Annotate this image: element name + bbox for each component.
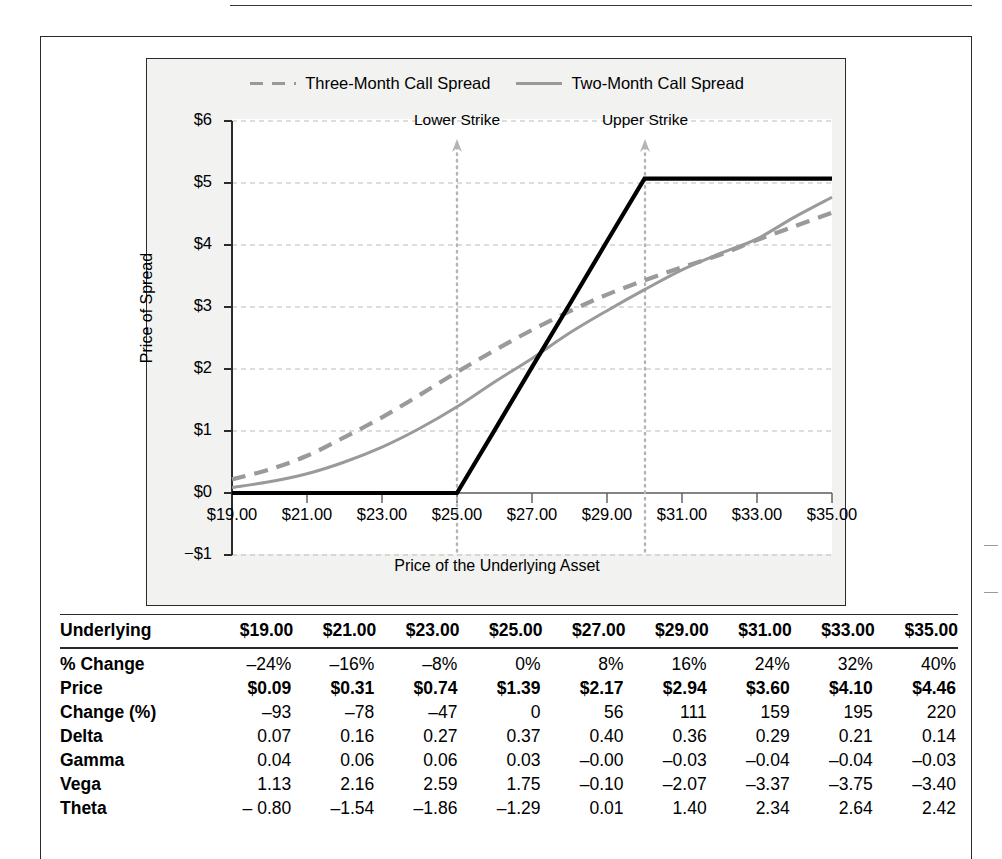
table-cell: – 0.80 (210, 797, 293, 821)
table-cell: –2.07 (626, 773, 709, 797)
table-cell: –78 (293, 701, 376, 725)
table-header-col-8: $35.00 (875, 615, 958, 649)
table-cell: $3.60 (709, 677, 792, 701)
x-tick-label-33: $33.00 (715, 505, 799, 524)
table-cell: 56 (542, 701, 625, 725)
table-cell: $0.09 (210, 677, 293, 701)
table-cell: –93 (210, 701, 293, 725)
table-cell: –16% (293, 648, 376, 677)
table-cell: 2.64 (792, 797, 875, 821)
table-header-col-1: $21.00 (293, 615, 376, 649)
y-tick-label-4: $4 (152, 234, 212, 253)
table-cell: 0.03 (459, 749, 542, 773)
table-cell: 0.37 (459, 725, 542, 749)
y-tick-label-5: $5 (152, 172, 212, 191)
table-cell: –47 (376, 701, 459, 725)
table-cell: 195 (792, 701, 875, 725)
table-row: Delta0.070.160.270.370.400.360.290.210.1… (60, 725, 958, 749)
page-edge-tick-upper (984, 545, 998, 546)
table-cell: $0.74 (376, 677, 459, 701)
x-tick-label-25: $25.00 (415, 505, 499, 524)
table-cell: 220 (875, 701, 958, 725)
table-cell: –3.37 (709, 773, 792, 797)
table-cell: $2.94 (626, 677, 709, 701)
table-cell: 0.29 (709, 725, 792, 749)
table-cell: 0.14 (875, 725, 958, 749)
x-tick-label-19: $19.00 (190, 505, 274, 524)
table-row-label: % Change (60, 648, 210, 677)
y-tick-label-2: $2 (152, 358, 212, 377)
table-row: Price$0.09$0.31$0.74$1.39$2.17$2.94$3.60… (60, 677, 958, 701)
table-row: Vega1.132.162.591.75–0.10–2.07–3.37–3.75… (60, 773, 958, 797)
table-cell: –0.04 (792, 749, 875, 773)
table-header-underlying: Underlying (60, 615, 210, 649)
table-cell: 0% (459, 648, 542, 677)
table-header-col-6: $31.00 (709, 615, 792, 649)
table-row: Change (%)–93–78–47056111159195220 (60, 701, 958, 725)
table-cell: $1.39 (459, 677, 542, 701)
table-cell: 0.27 (376, 725, 459, 749)
upper-strike-label: Upper Strike (575, 111, 715, 129)
table-row-label: Price (60, 677, 210, 701)
table-row-label: Change (%) (60, 701, 210, 725)
table-cell: $0.31 (293, 677, 376, 701)
table-cell: 2.16 (293, 773, 376, 797)
table-cell: 1.40 (626, 797, 709, 821)
table-row-label: Theta (60, 797, 210, 821)
table-cell: –0.04 (709, 749, 792, 773)
x-tick-label-31: $31.00 (640, 505, 724, 524)
table-cell: 40% (875, 648, 958, 677)
table-cell: 32% (792, 648, 875, 677)
table-header-col-0: $19.00 (210, 615, 293, 649)
x-tick-label-27: $27.00 (490, 505, 574, 524)
table-cell: –0.10 (542, 773, 625, 797)
x-tick-label-29: $29.00 (565, 505, 649, 524)
page-top-rule (230, 5, 972, 6)
figure-page: Three-Month Call Spread Two-Month Call S… (0, 0, 1002, 859)
table-header-col-4: $27.00 (542, 615, 625, 649)
table-header-row: Underlying $19.00 $21.00 $23.00 $25.00 $… (60, 615, 958, 649)
table-cell: 24% (709, 648, 792, 677)
table-cell: 2.34 (709, 797, 792, 821)
table-cell: –1.86 (376, 797, 459, 821)
table-cell: 0.04 (210, 749, 293, 773)
table-cell: –0.03 (875, 749, 958, 773)
table-row-label: Delta (60, 725, 210, 749)
table-row-label: Gamma (60, 749, 210, 773)
table-cell: 16% (626, 648, 709, 677)
table-header-col-5: $29.00 (626, 615, 709, 649)
plot-svg (147, 59, 847, 607)
table-header-col-7: $33.00 (792, 615, 875, 649)
plot-area: $6 $5 $4 $3 $2 $1 $0 −$1 $19.00 $21.00 $… (147, 59, 847, 607)
y-tick-label-6: $6 (152, 110, 212, 129)
table-cell: 1.13 (210, 773, 293, 797)
x-axis-title: Price of the Underlying Asset (147, 557, 847, 575)
table-cell: –0.03 (626, 749, 709, 773)
greeks-table-container: Underlying $19.00 $21.00 $23.00 $25.00 $… (60, 614, 958, 821)
chart-container: Three-Month Call Spread Two-Month Call S… (146, 58, 846, 606)
table-body: % Change–24%–16%–8%0%8%16%24%32%40%Price… (60, 648, 958, 821)
x-tick-label-21: $21.00 (265, 505, 349, 524)
table-cell: 0.16 (293, 725, 376, 749)
x-tick-label-23: $23.00 (340, 505, 424, 524)
y-tick-label-3: $3 (152, 296, 212, 315)
y-tick-label-0: $0 (152, 482, 212, 501)
table-cell: $4.10 (792, 677, 875, 701)
table-cell: 0.40 (542, 725, 625, 749)
table-cell: –3.40 (875, 773, 958, 797)
table-cell: 111 (626, 701, 709, 725)
table-row: Gamma0.040.060.060.03–0.00–0.03–0.04–0.0… (60, 749, 958, 773)
table-cell: 1.75 (459, 773, 542, 797)
table-cell: 8% (542, 648, 625, 677)
table-cell: $4.46 (875, 677, 958, 701)
table-cell: –1.54 (293, 797, 376, 821)
lower-strike-label: Lower Strike (387, 111, 527, 129)
table-cell: 2.42 (875, 797, 958, 821)
table-cell: –0.00 (542, 749, 625, 773)
page-edge-tick-lower (984, 592, 998, 593)
table-cell: –3.75 (792, 773, 875, 797)
table-cell: 0.06 (293, 749, 376, 773)
table-head: Underlying $19.00 $21.00 $23.00 $25.00 $… (60, 615, 958, 649)
table-header-col-2: $23.00 (376, 615, 459, 649)
table-cell: 159 (709, 701, 792, 725)
